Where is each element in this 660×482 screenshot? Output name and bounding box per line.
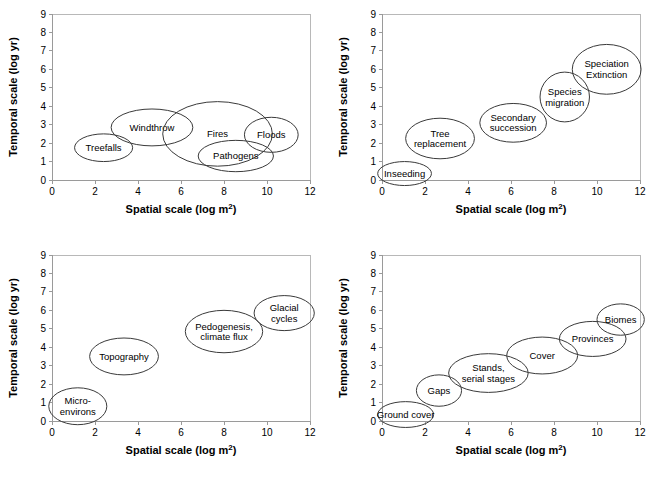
bubble-treefalls[interactable]: Treefalls xyxy=(75,134,133,162)
x-tick-label: 0 xyxy=(49,427,55,438)
figure-caption-clipped xyxy=(0,470,660,482)
x-tick-label: 10 xyxy=(591,427,603,438)
bubble-label: Micro- xyxy=(65,395,91,406)
bubble-label: replacement xyxy=(414,138,467,149)
bubble-speciation-extinction[interactable]: SpeciationExtinction xyxy=(572,44,641,94)
bubble-label: environs xyxy=(60,406,96,417)
bubble-label: Cover xyxy=(530,350,555,361)
bubble-label: Fires xyxy=(207,128,228,139)
bubble-label: Glacial xyxy=(270,302,299,313)
y-tick-label: 7 xyxy=(40,45,46,56)
x-tick-label: 8 xyxy=(221,186,227,197)
y-tick-label: 4 xyxy=(370,101,376,112)
plot-bottom-right: 0123456789024681012Spatial scale (log m2… xyxy=(330,241,660,482)
bubble-label: Inseeding xyxy=(384,168,425,179)
y-tick-label: 1 xyxy=(40,397,46,408)
y-tick-label: 9 xyxy=(370,9,376,20)
plot-top-right: 0123456789024681012Spatial scale (log m2… xyxy=(330,0,660,241)
bubble-label: Treefalls xyxy=(86,142,122,153)
y-tick-label: 7 xyxy=(370,286,376,297)
x-tick-label: 6 xyxy=(178,186,184,197)
bubble-cover[interactable]: Cover xyxy=(507,337,578,374)
y-axis-title: Temporal scale (log yr) xyxy=(7,278,19,398)
y-tick-label: 0 xyxy=(370,175,376,186)
bubble-tree-replacement[interactable]: Treereplacement xyxy=(406,118,475,159)
figure-four-panel-scale-diagram: 0123456789024681012Spatial scale (log m2… xyxy=(0,0,660,482)
panel-bottom-left: 0123456789024681012Spatial scale (log m2… xyxy=(0,241,330,482)
plot-top-left: 0123456789024681012Spatial scale (log m2… xyxy=(0,0,330,241)
x-tick-label: 8 xyxy=(551,186,557,197)
bubble-label: cycles xyxy=(271,313,298,324)
bubble-label: Pedogenesis, xyxy=(195,321,253,332)
bubble-species-migration[interactable]: Speciesmigration xyxy=(540,72,589,122)
y-tick-label: 4 xyxy=(40,101,46,112)
y-axis-title: Temporal scale (log yr) xyxy=(337,278,349,398)
x-tick-label: 10 xyxy=(261,186,273,197)
x-tick-label: 6 xyxy=(178,427,184,438)
bubble-pathogens[interactable]: Pathogens xyxy=(198,140,273,171)
bubble-topography[interactable]: Topography xyxy=(90,338,159,375)
x-tick-label: 12 xyxy=(634,427,646,438)
y-tick-label: 9 xyxy=(40,250,46,261)
bubble-label: Pathogens xyxy=(213,150,259,161)
y-tick-label: 1 xyxy=(370,156,376,167)
bubble-stands-serial-stages[interactable]: Stands,serial stages xyxy=(449,354,529,393)
y-tick-label: 0 xyxy=(370,416,376,427)
bubble-ground-cover[interactable]: Ground cover xyxy=(377,402,435,428)
bubble-inseeding[interactable]: Inseeding xyxy=(378,162,432,186)
y-tick-label: 6 xyxy=(370,305,376,316)
y-tick-label: 5 xyxy=(370,82,376,93)
y-tick-label: 3 xyxy=(370,360,376,371)
x-tick-label: 0 xyxy=(379,186,385,197)
y-tick-label: 6 xyxy=(40,64,46,75)
bubble-pedogenesis-climate-flux[interactable]: Pedogenesis,climate flux xyxy=(185,310,262,352)
y-axis-title: Temporal scale (log yr) xyxy=(7,37,19,157)
bubble-glacial-cycles[interactable]: Glacialcycles xyxy=(254,296,314,331)
bubble-provinces[interactable]: Provinces xyxy=(559,321,626,356)
y-tick-label: 5 xyxy=(40,82,46,93)
x-tick-label: 0 xyxy=(379,427,385,438)
bubble-label: Floods xyxy=(257,129,286,140)
y-tick-label: 1 xyxy=(370,397,376,408)
bubble-gaps[interactable]: Gaps xyxy=(416,375,461,406)
x-tick-label: 2 xyxy=(422,427,428,438)
y-tick-label: 3 xyxy=(40,360,46,371)
y-tick-label: 2 xyxy=(370,138,376,149)
bubble-label: Stands, xyxy=(472,362,504,373)
y-tick-label: 8 xyxy=(40,268,46,279)
panel-top-right: 0123456789024681012Spatial scale (log m2… xyxy=(330,0,660,241)
y-tick-label: 5 xyxy=(40,323,46,334)
y-tick-label: 2 xyxy=(40,138,46,149)
bubble-secondary-succession[interactable]: Secondarysuccession xyxy=(480,103,547,142)
y-tick-label: 1 xyxy=(40,156,46,167)
bubble-label: Gaps xyxy=(428,385,451,396)
y-tick-label: 4 xyxy=(40,342,46,353)
y-tick-label: 7 xyxy=(370,45,376,56)
bubble-label: Topography xyxy=(99,351,149,362)
bubble-biomes[interactable]: Biomes xyxy=(597,304,644,335)
bubble-label: succession xyxy=(490,122,537,133)
x-tick-label: 12 xyxy=(304,186,316,197)
bubble-label: Speciation xyxy=(584,58,628,69)
plot-frame xyxy=(52,14,310,180)
y-tick-label: 8 xyxy=(370,27,376,38)
y-tick-label: 6 xyxy=(370,64,376,75)
bubble-label: Secondary xyxy=(490,112,536,123)
bubble-label: Windthrow xyxy=(130,122,175,133)
x-tick-label: 8 xyxy=(221,427,227,438)
y-tick-label: 3 xyxy=(370,119,376,130)
bubble-label: climate flux xyxy=(200,331,248,342)
x-tick-label: 2 xyxy=(92,427,98,438)
x-axis-title: Spatial scale (log m2) xyxy=(456,443,567,457)
bubble-floods[interactable]: Floods xyxy=(244,117,298,152)
bubble-label: migration xyxy=(545,97,584,108)
x-tick-label: 4 xyxy=(135,427,141,438)
bubble-windthrow[interactable]: Windthrow xyxy=(111,109,193,146)
plot-bottom-left: 0123456789024681012Spatial scale (log m2… xyxy=(0,241,330,482)
y-axis-title: Temporal scale (log yr) xyxy=(337,37,349,157)
bubble-micro-environs[interactable]: Micro-environs xyxy=(49,388,107,425)
x-tick-label: 8 xyxy=(551,427,557,438)
panel-top-left: 0123456789024681012Spatial scale (log m2… xyxy=(0,0,330,241)
bubble-label: Ground cover xyxy=(377,409,435,420)
x-axis-title: Spatial scale (log m2) xyxy=(456,202,567,216)
